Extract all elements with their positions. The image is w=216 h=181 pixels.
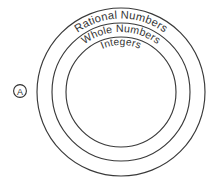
choice-marker[interactable]: A xyxy=(14,85,27,98)
choice-marker-letter: A xyxy=(17,87,23,97)
venn-diagram-svg: Rational Numbers Whole Numbers Integers … xyxy=(0,0,216,181)
nested-sets-diagram: Rational Numbers Whole Numbers Integers … xyxy=(0,0,216,181)
